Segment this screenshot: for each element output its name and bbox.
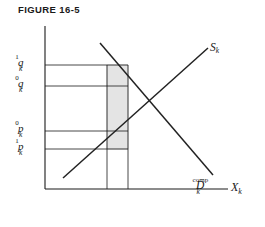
plot-canvas — [0, 0, 265, 227]
demand-curve-label: Dkcomp — [196, 180, 204, 192]
x-axis-label: Xk — [231, 180, 242, 196]
supply-curve — [63, 48, 208, 178]
y-label-p-k-1: pk1 — [18, 141, 24, 152]
y-label-q-k-1: qk1 — [18, 57, 24, 68]
y-label-p-k-0: pk0 — [18, 123, 24, 134]
supply-curve-label: Sk — [210, 42, 219, 55]
y-label-q-k-0: qk0 — [18, 78, 24, 89]
figure-container: FIGURE 16-5 qk1 qk0 — [0, 0, 265, 227]
